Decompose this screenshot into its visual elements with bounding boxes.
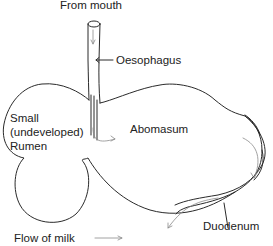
duodenum-tube: [175, 115, 265, 214]
rumen-label-line1: Small: [10, 112, 39, 124]
legend-flow-arrow: [95, 236, 122, 240]
abomasum-label: Abomasum: [130, 123, 188, 135]
rumen-label-line2: (undeveloped): [10, 126, 84, 138]
groove-flow-arrow: [93, 128, 115, 141]
duodenum-label: Duodenum: [203, 220, 259, 232]
oesophagus-label: Oesophagus: [116, 54, 181, 66]
rumen-label-line3: Rumen: [10, 140, 47, 152]
stomach-outline: [3, 84, 262, 223]
oesophagus-flow-arrow: [91, 30, 95, 44]
from-mouth-label: From mouth: [60, 0, 122, 11]
esophageal-groove: [91, 95, 97, 140]
duodenum-flow-arrow: [168, 138, 258, 228]
oesophagus-pointer: [96, 58, 113, 63]
legend-flow-of-milk-label: Flow of milk: [14, 232, 75, 244]
calf-stomach-diagram: From mouth Oesophagus: [0, 0, 273, 246]
